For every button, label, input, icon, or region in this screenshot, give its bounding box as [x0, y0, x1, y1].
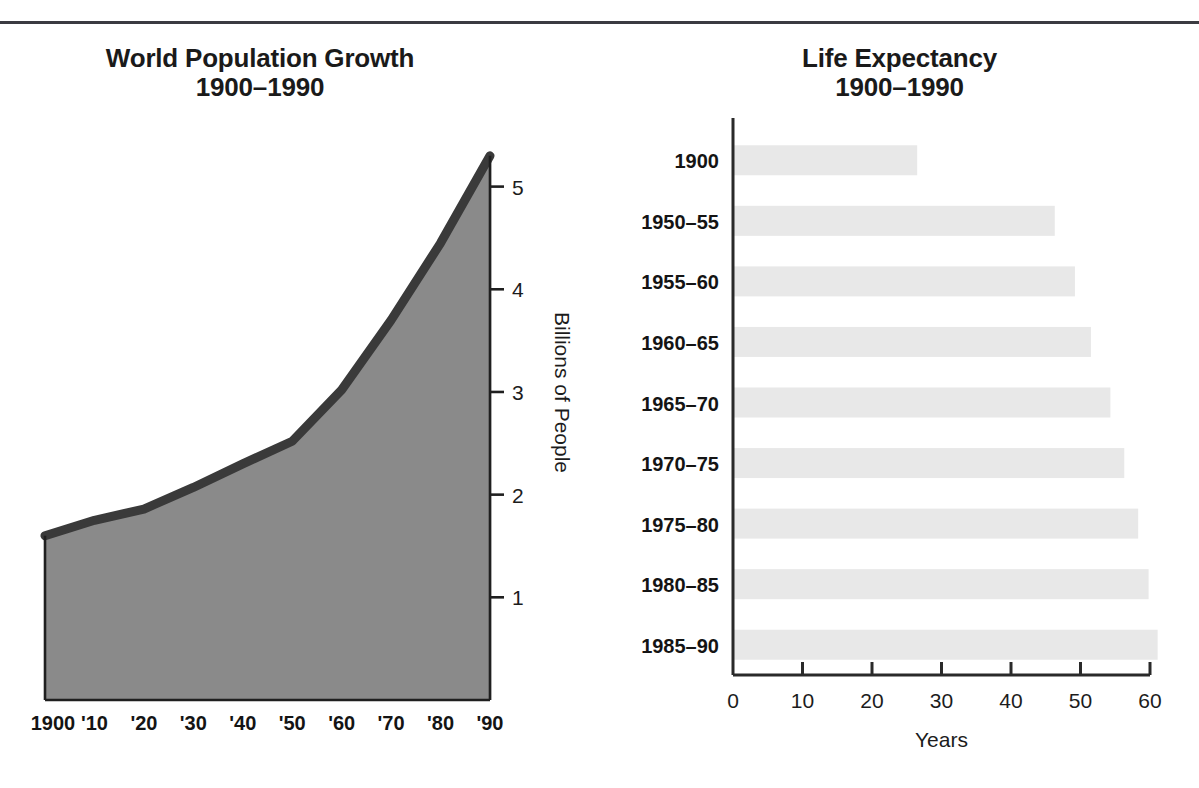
- area-chart-y-ticks: 12345: [490, 176, 524, 610]
- bar-item: [733, 630, 1158, 660]
- area-chart-x-tick-label: '50: [279, 712, 306, 730]
- area-chart-x-tick-label: '40: [229, 712, 256, 730]
- area-chart-x-tick-label: '70: [378, 712, 405, 730]
- area-chart-x-labels: 1900'10'20'30'40'50'60'70'80'90: [31, 712, 504, 730]
- area-chart-x-tick-label: '30: [180, 712, 207, 730]
- bar-chart-x-tick-label: 0: [727, 689, 739, 712]
- bar-category-label: 1970–75: [641, 453, 719, 475]
- bar-chart-x-ticks: 0102030405060: [727, 662, 1162, 712]
- bar-category-label: 1950–55: [641, 211, 719, 233]
- area-chart-y-tick-label: 5: [512, 176, 524, 199]
- area-chart-x-tick-label: '90: [476, 712, 503, 730]
- bar-category-label: 1960–65: [641, 332, 719, 354]
- world-population-panel: World Population Growth 1900–1990 12345 …: [0, 30, 600, 788]
- bar-item: [733, 509, 1138, 539]
- bar-item: [733, 327, 1091, 357]
- life-expectancy-title-line1: Life Expectancy: [802, 43, 997, 73]
- bar-chart-x-tick-label: 40: [999, 689, 1022, 712]
- bar-category-label: 1975–80: [641, 514, 719, 536]
- bar-series: [733, 145, 1158, 659]
- figure-page: World Population Growth 1900–1990 12345 …: [0, 0, 1199, 788]
- bar-category-label: 1900: [675, 150, 720, 172]
- bar-item: [733, 388, 1110, 418]
- bar-category-label: 1985–90: [641, 635, 719, 657]
- bar-item: [733, 569, 1149, 599]
- area-chart-x-tick-label: '10: [81, 712, 108, 730]
- area-chart-x-tick-label: 1900: [31, 712, 76, 730]
- bar-chart-x-tick-label: 50: [1069, 689, 1092, 712]
- bar-chart-x-tick-label: 10: [791, 689, 814, 712]
- world-population-area-chart: 12345 1900'10'20'30'40'50'60'70'80'90 Bi…: [0, 30, 600, 730]
- bar-category-label: 1965–70: [641, 393, 719, 415]
- area-chart-y-tick-label: 3: [512, 381, 524, 404]
- bar-item: [733, 145, 917, 175]
- area-chart-y-axis-title: Billions of People: [551, 312, 574, 473]
- bar-category-label: 1955–60: [641, 271, 719, 293]
- top-rule-divider: [0, 21, 1199, 24]
- life-expectancy-title-line2: 1900–1990: [600, 73, 1199, 102]
- area-chart-x-tick-label: '20: [130, 712, 157, 730]
- bar-chart-x-axis-title: Years: [915, 728, 968, 750]
- life-expectancy-panel: Life Expectancy 1900–1990 19001950–55195…: [600, 30, 1199, 788]
- life-expectancy-bar-chart: 19001950–551955–601960–651965–701970–751…: [600, 30, 1199, 750]
- bar-chart-x-tick-label: 60: [1138, 689, 1161, 712]
- bar-chart-x-tick-label: 20: [860, 689, 883, 712]
- life-expectancy-title: Life Expectancy 1900–1990: [600, 44, 1199, 102]
- area-chart-y-tick-label: 1: [512, 586, 524, 609]
- bar-item: [733, 448, 1124, 478]
- area-chart-x-tick-label: '60: [328, 712, 355, 730]
- area-chart-y-tick-label: 2: [512, 484, 524, 507]
- bar-chart-x-tick-label: 30: [930, 689, 953, 712]
- bar-category-label: 1980–85: [641, 574, 719, 596]
- world-population-title-line1: World Population Growth: [106, 43, 414, 73]
- world-population-title: World Population Growth 1900–1990: [0, 44, 520, 102]
- area-chart-x-tick-label: '80: [427, 712, 454, 730]
- area-chart-fill: [45, 156, 490, 700]
- area-chart-y-tick-label: 4: [512, 278, 524, 301]
- bar-item: [733, 206, 1055, 236]
- world-population-title-line2: 1900–1990: [0, 73, 520, 102]
- bar-category-labels: 19001950–551955–601960–651965–701970–751…: [641, 150, 719, 656]
- bar-item: [733, 266, 1075, 296]
